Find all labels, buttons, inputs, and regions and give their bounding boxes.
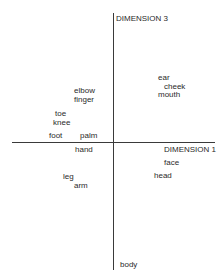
term-toe: toe xyxy=(55,109,66,118)
term-leg: leg xyxy=(63,172,74,181)
dimension-1-label: DIMENSION 1 xyxy=(164,145,216,154)
term-knee: knee xyxy=(53,118,70,127)
term-palm: palm xyxy=(80,131,97,140)
dimension-1-axis xyxy=(12,142,215,143)
dimension-3-label: DIMENSION 3 xyxy=(116,14,168,23)
term-arm: arm xyxy=(74,181,88,190)
term-face: face xyxy=(164,158,179,167)
term-foot: foot xyxy=(49,131,62,140)
semantic-space-diagram: DIMENSION 3 DIMENSION 1 ear cheek mouth … xyxy=(0,0,224,280)
term-finger: finger xyxy=(74,95,94,104)
term-ear: ear xyxy=(158,73,170,82)
term-mouth: mouth xyxy=(158,90,180,99)
term-body: body xyxy=(120,260,137,269)
term-elbow: elbow xyxy=(74,86,95,95)
term-hand: hand xyxy=(75,145,93,154)
term-head: head xyxy=(154,171,172,180)
